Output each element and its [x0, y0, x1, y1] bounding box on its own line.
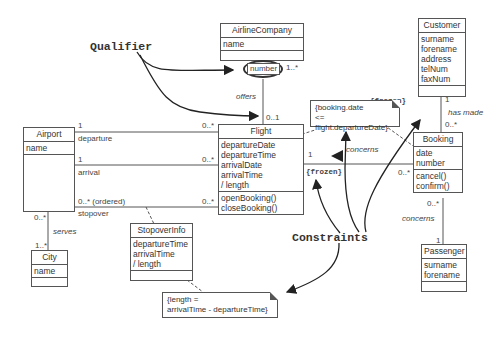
note-line: {booking.date — [315, 103, 395, 113]
assoc-concerns-label: concerns — [346, 145, 378, 155]
operation: closeBooking() — [221, 203, 301, 213]
offers-flight-multiplicity: 0..1 — [266, 113, 279, 123]
class-customer[interactable]: Customer surname forename address telNum… — [418, 18, 466, 97]
assoc-serves-label: serves — [53, 227, 77, 237]
note-fold-corner — [270, 292, 278, 300]
note-line: {length = — [167, 295, 273, 305]
arrival-flight-multiplicity: 0..* — [202, 155, 214, 165]
operations-compartment — [24, 155, 74, 163]
class-name: Flight — [219, 125, 303, 139]
has-made-customer-multiplicity: 1 — [445, 95, 449, 105]
operation: confirm() — [416, 181, 460, 191]
attribute: faxNum — [421, 74, 463, 84]
concerns-flight-multiplicity: 1 — [308, 150, 312, 160]
attribute: date — [416, 148, 460, 158]
arrival-role-label: arrival — [78, 168, 100, 178]
departure-role-label: departure — [78, 134, 112, 144]
constraints-annotation: Constraints — [292, 231, 368, 244]
stopover-flight-multiplicity: 0..* — [202, 197, 214, 207]
departure-flight-multiplicity: 0..* — [202, 121, 214, 131]
attribute: arrivalDate — [221, 160, 301, 170]
concerns-booking-multiplicity: 0..* — [398, 168, 410, 178]
frozen-constraint-flight: {frozen} — [306, 168, 342, 176]
assoc-offers-label: offers — [236, 92, 256, 102]
arrival-airport-multiplicity: 1 — [78, 155, 82, 165]
attribute: departureTime — [133, 239, 190, 249]
attribute: arrivalTime — [221, 170, 301, 180]
class-airport[interactable]: Airport name — [23, 127, 75, 212]
attribute: arrivalTime — [133, 249, 190, 259]
attribute: number — [416, 158, 460, 168]
stopover-role-label: stopover — [78, 209, 109, 219]
attribute: address — [421, 54, 463, 64]
attribute: name — [26, 143, 72, 153]
class-city[interactable]: City name — [31, 250, 68, 287]
operations-compartment — [419, 86, 465, 96]
class-airline-company[interactable]: AirlineCompany name — [220, 23, 304, 61]
attribute: forename — [424, 270, 464, 280]
departure-airport-multiplicity: 1 — [78, 121, 82, 131]
class-stopover-info[interactable]: StopoverInfo departureTime arrivalTime /… — [130, 223, 193, 281]
class-name: AirlineCompany — [221, 24, 303, 38]
note-fold-corner — [392, 100, 400, 108]
class-name: Passenger — [422, 245, 466, 259]
class-name: Airport — [24, 128, 74, 142]
qualifier-multiplicity: 1..* — [286, 63, 298, 73]
attribute: departureDate — [221, 140, 301, 150]
class-name: Booking — [414, 133, 462, 147]
class-passenger[interactable]: Passenger surname forename — [421, 244, 467, 292]
attribute: departureTime — [221, 150, 301, 160]
serves-airport-multiplicity: 0..* — [34, 213, 46, 223]
attribute: / length — [221, 180, 301, 190]
attribute: name — [223, 39, 301, 49]
length-constraint-note: {length = arrivalTime - departureTime} — [162, 292, 278, 318]
class-name: Customer — [419, 19, 465, 33]
class-booking[interactable]: Booking date number cancel() confirm() — [413, 132, 463, 193]
note-line: <= flight.departureDate} — [315, 113, 395, 133]
attribute: name — [34, 266, 65, 276]
operations-compartment — [221, 51, 303, 60]
operations-compartment — [32, 278, 67, 286]
operations-compartment — [131, 271, 192, 280]
assoc-has-made-label: has made — [448, 108, 483, 118]
attribute: forename — [421, 44, 463, 54]
note-line: arrivalTime - departureTime} — [167, 305, 273, 315]
operations-compartment — [422, 282, 466, 291]
class-flight[interactable]: Flight departureDate departureTime arriv… — [218, 124, 304, 215]
class-name: StopoverInfo — [131, 224, 192, 238]
booking-date-constraint-note: {booking.date <= flight.departureDate} — [310, 100, 400, 127]
attribute: / length — [133, 259, 190, 269]
class-name: City — [32, 251, 67, 265]
attribute: surname — [424, 260, 464, 270]
operation: cancel() — [416, 171, 460, 181]
attribute: telNum — [421, 64, 463, 74]
has-made-booking-multiplicity: 0..* — [445, 120, 457, 130]
assoc-concerns-passenger-label: concerns — [402, 214, 434, 224]
operation: openBooking() — [221, 193, 301, 203]
attribute: surname — [421, 34, 463, 44]
qualifier-box[interactable]: number — [247, 63, 280, 75]
qualifier-annotation: Qualifier — [90, 40, 152, 53]
concerns-passenger-booking-multiplicity: 0..* — [427, 199, 439, 209]
stopover-airport-multiplicity: 0..* (ordered) — [78, 197, 125, 207]
